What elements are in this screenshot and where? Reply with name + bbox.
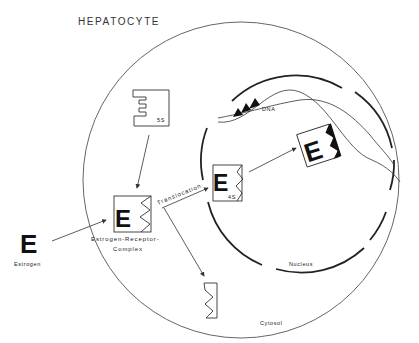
arrow-4s-to-dna: [249, 148, 296, 172]
receptor-5s-label: 5S: [157, 117, 165, 123]
hepatocyte-diagram: HEPATOCYTE DNA 5S E Estrogen E: [0, 0, 419, 343]
estrogen-receptor-complex: E: [114, 196, 151, 232]
receptor-4s-glyph: E: [213, 170, 228, 196]
estrogen-label: Estrogen: [14, 261, 41, 267]
complex-label-line2: Complex: [113, 246, 143, 252]
receptor-4s-label: 4S: [228, 194, 236, 200]
free-receptor: [204, 283, 217, 318]
receptor-5s: 5S: [133, 90, 169, 126]
dna-binding-sites: [233, 98, 260, 117]
dna-label: DNA: [262, 106, 275, 112]
dna-bound-complex: E: [297, 124, 342, 169]
arrow-5s-to-complex: [137, 135, 149, 188]
receptor-4s-complex: E 4S: [213, 165, 243, 201]
arrow-to-free-receptor: [164, 208, 204, 276]
complex-glyph: E: [115, 205, 131, 232]
translocation-label: Translocation: [156, 183, 202, 206]
title-hepatocyte: HEPATOCYTE: [78, 16, 160, 27]
nucleus-label: Nucleus: [289, 261, 313, 267]
complex-label-line1: Estrogen-Receptor-: [91, 236, 160, 242]
cytosol-label: Cytosol: [260, 320, 283, 326]
estrogen-glyph: E: [20, 229, 37, 259]
